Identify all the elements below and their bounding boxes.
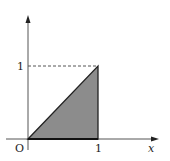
- x-axis-arrow-icon: [151, 137, 159, 142]
- x-tick-label: 1: [95, 142, 102, 155]
- origin-label: O: [15, 142, 24, 155]
- x-axis-label: x: [148, 142, 155, 155]
- y-axis-arrow-icon: [26, 15, 31, 23]
- coordinate-diagram: 1 O 1 x: [0, 0, 170, 161]
- shaded-region: [28, 66, 98, 139]
- y-tick-label: 1: [17, 60, 24, 73]
